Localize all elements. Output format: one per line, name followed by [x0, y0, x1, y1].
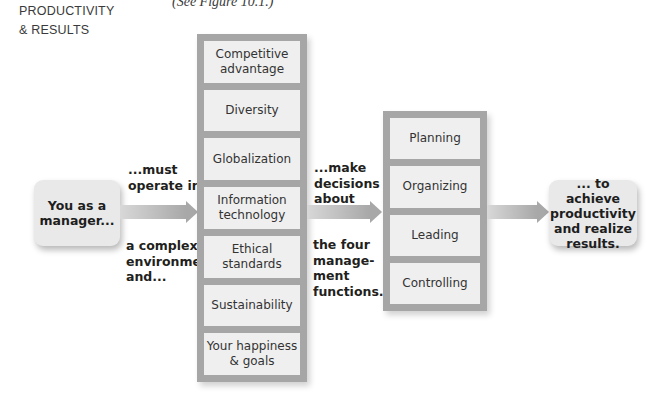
- note-line: functions...: [313, 284, 393, 300]
- function-item-leading: Leading: [390, 215, 480, 256]
- note-must-operate: ...must operate in: [128, 162, 201, 193]
- environment-column: Competitive advantage Diversity Globaliz…: [197, 34, 307, 382]
- figure-reference: (See Figure 10.1.): [172, 0, 273, 10]
- environment-item-globalization: Globalization: [204, 138, 300, 180]
- cell-line: Ethical: [222, 242, 281, 257]
- section-label: PRODUCTIVITY & RESULTS: [19, 2, 114, 40]
- start-box-line2: manager...: [40, 213, 115, 228]
- environment-item-happiness-goals: Your happiness & goals: [204, 333, 300, 375]
- end-box-line3: and realize: [549, 221, 637, 236]
- cell-line: & goals: [207, 354, 297, 369]
- arrow-right-icon: [120, 205, 198, 219]
- end-box: ... to achieve productivity and realize …: [549, 180, 637, 246]
- environment-item-ethical-standards: Ethical standards: [204, 236, 300, 278]
- functions-column: Planning Organizing Leading Controlling: [383, 111, 487, 311]
- cell-line: Sustainability: [211, 298, 292, 313]
- end-box-line4: results.: [549, 236, 637, 251]
- cell-line: standards: [222, 257, 281, 272]
- section-label-line2: & RESULTS: [19, 21, 114, 40]
- cell-line: Competitive: [216, 47, 289, 62]
- note-four-functions: the four manage- ment functions...: [313, 237, 393, 299]
- note-make-decisions: ...make decisions about: [314, 160, 380, 207]
- function-item-controlling: Controlling: [390, 263, 480, 304]
- environment-item-diversity: Diversity: [204, 90, 300, 132]
- cell-line: Globalization: [213, 152, 291, 167]
- environment-item-information-technology: Information technology: [204, 187, 300, 229]
- environment-item-competitive-advantage: Competitive advantage: [204, 41, 300, 83]
- note-line: operate in: [128, 178, 201, 194]
- note-line: about: [314, 191, 380, 207]
- start-box-line1: You as a: [40, 198, 115, 213]
- cell-line: Your happiness: [207, 339, 297, 354]
- cell-line: advantage: [216, 62, 289, 77]
- note-line: ...make: [314, 160, 380, 176]
- start-box: You as a manager...: [34, 180, 120, 246]
- function-item-organizing: Organizing: [390, 166, 480, 207]
- section-label-line1: PRODUCTIVITY: [19, 2, 114, 21]
- cell-line: Diversity: [225, 103, 278, 118]
- note-line: the four: [313, 237, 393, 253]
- environment-item-sustainability: Sustainability: [204, 285, 300, 327]
- note-line: manage-: [313, 253, 393, 269]
- note-line: decisions: [314, 176, 380, 192]
- end-box-line2: productivity: [549, 206, 637, 221]
- end-box-line1: ... to achieve: [549, 176, 637, 206]
- arrow-right-icon: [487, 205, 549, 219]
- function-item-planning: Planning: [390, 118, 480, 159]
- note-line: ...must: [128, 162, 201, 178]
- arrow-right-icon: [307, 205, 382, 219]
- cell-line: technology: [217, 208, 286, 223]
- note-line: ment: [313, 268, 393, 284]
- cell-line: Information: [217, 193, 286, 208]
